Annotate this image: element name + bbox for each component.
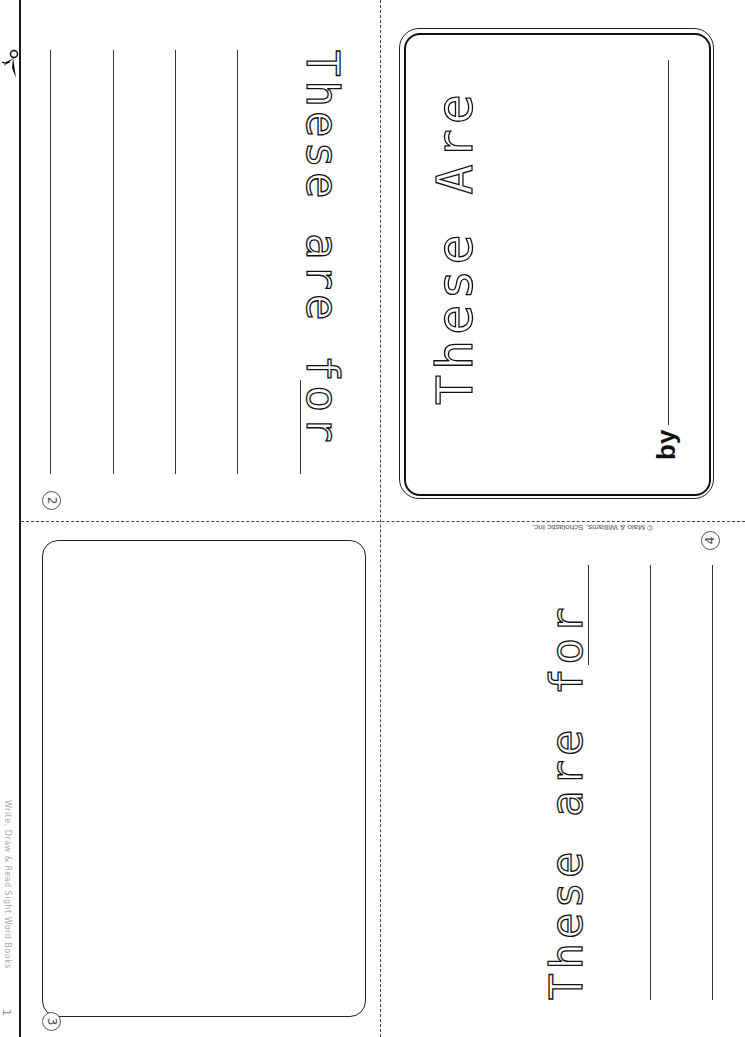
traceable-sentence: These are for: [545, 604, 589, 1000]
copyright-notice: © Maio & Williams, Scholastic Inc.: [532, 523, 653, 532]
margin-book-title: Write, Draw & Read Sight Word Books: [3, 775, 12, 995]
fill-in-blank-line[interactable]: [300, 380, 301, 474]
writing-line[interactable]: [237, 50, 238, 474]
byline-label: by: [651, 430, 682, 460]
page-number-badge: 4: [701, 531, 720, 550]
writing-line[interactable]: [175, 50, 176, 474]
margin-page-number: 1: [0, 1009, 13, 1016]
fill-in-blank-line[interactable]: [588, 565, 589, 665]
writing-line[interactable]: [50, 50, 51, 474]
scissors-icon: [2, 48, 22, 84]
traceable-sentence: These are for: [300, 50, 344, 446]
writing-line[interactable]: [712, 565, 713, 1000]
writing-line[interactable]: [113, 50, 114, 474]
vertical-fold-line: [380, 0, 381, 1037]
drawing-box[interactable]: [42, 540, 366, 1017]
writing-line[interactable]: [650, 565, 651, 1000]
cover-title-trace: These Are: [430, 89, 480, 405]
solid-cut-line: [19, 0, 21, 1037]
page-number-badge: 3: [42, 1012, 61, 1031]
page-number-badge: 2: [42, 491, 61, 510]
horizontal-fold-line: [21, 521, 745, 522]
author-name-line[interactable]: [668, 60, 669, 425]
